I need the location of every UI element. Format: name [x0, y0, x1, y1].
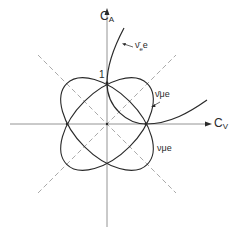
- curve-nu-bar-e-e: [107, 28, 207, 124]
- tick-label-one: 1: [99, 70, 105, 80]
- diagram-svg: [0, 0, 231, 236]
- label-nu-mu-e: νμe: [157, 144, 172, 153]
- point-origin: [106, 123, 108, 125]
- point-top: [106, 82, 109, 85]
- ca-axis-label: CA: [100, 10, 114, 24]
- point-right: [145, 123, 148, 126]
- label-nu-bar-mu-e: ν̄μe: [155, 90, 170, 99]
- cv-axis-arrow-icon: [205, 122, 212, 127]
- diagram-canvas: CA CV 1 ν̄ee ν̄μe νμe: [0, 0, 231, 236]
- label-nu-bar-e-e: ν̄ee: [135, 41, 148, 52]
- leader-arrow-icon: [122, 43, 126, 46]
- cv-axis-label: CV: [214, 117, 228, 131]
- point-left: [66, 123, 68, 125]
